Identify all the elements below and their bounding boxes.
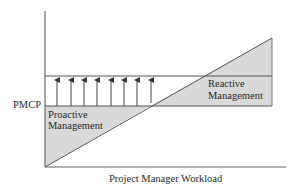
y-axis-label: PMCP [13, 99, 41, 110]
reactive-label-line1: Reactive [208, 78, 245, 89]
reactive-label-line2: Management [208, 90, 263, 101]
proactive-label-line2: Management [48, 120, 103, 131]
x-axis-label: Project Manager Workload [109, 173, 222, 184]
proactive-label-line1: Proactive [48, 109, 88, 120]
capacity-arrows [57, 80, 151, 106]
